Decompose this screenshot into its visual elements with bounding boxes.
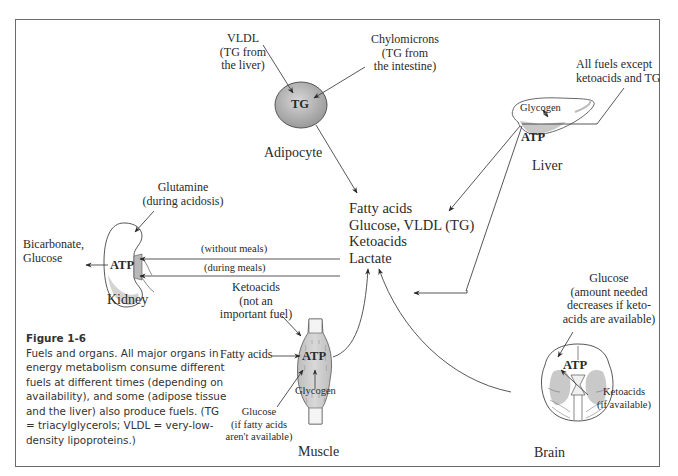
muscle-atp-label: ATP	[302, 349, 326, 364]
glutamine-label: Glutamine (during acidosis)	[133, 181, 233, 208]
brain-glucose-label-line: acids are available)	[559, 313, 659, 327]
muscle-icon	[297, 319, 331, 424]
muscle-glycogen-label: Glycogen	[295, 385, 336, 398]
muscle-glucose-label-line: Glucose	[222, 406, 296, 419]
glutamine-arrow	[135, 211, 154, 232]
glutamine-label-line: Glutamine	[133, 181, 233, 195]
during-meals-label: (during meals)	[204, 262, 266, 275]
brain-name: Brain	[534, 445, 565, 461]
glutamine-label-line: (during acidosis)	[133, 195, 233, 209]
liver-atp-label: ATP	[521, 130, 545, 145]
figure-caption-text: Fuels and organs. All major organs in en…	[26, 347, 226, 446]
adipocyte-tg-label: TG	[291, 97, 309, 112]
liver-glycogen-label: Glycogen	[520, 102, 561, 115]
kidney-name: Kidney	[107, 292, 148, 308]
liver-input-label-line: All fuels except	[576, 58, 660, 72]
muscle-ketoacids-label-line: (not an	[218, 295, 294, 309]
liver-output-arrow	[449, 126, 520, 211]
muscle-to-lactate-arrow	[333, 269, 368, 357]
muscle-glucose-label-line: aren't available)	[222, 431, 296, 444]
kidney-atp-label: ATP	[110, 258, 134, 273]
chylomicrons-label-line: the intestine)	[360, 60, 450, 74]
brain-ketoacids-label: Ketoacids (if available)	[592, 386, 656, 411]
circulating-fuels-list: Fatty acids Glucose, VLDL (TG) Ketoacids…	[349, 200, 474, 267]
vldl-label: VLDL (TG from the liver)	[208, 32, 278, 73]
brain-to-lactate-arrow	[379, 269, 511, 392]
fuel-ketoacids: Ketoacids	[349, 233, 474, 250]
muscle-ketoacids-label-line: Ketoacids	[218, 281, 294, 295]
muscle-ketoacids-label-line: important fuel)	[218, 308, 294, 322]
fuel-fatty-acids: Fatty acids	[349, 200, 474, 217]
muscle-ketoacids-label: Ketoacids (not an important fuel)	[218, 281, 294, 322]
muscle-glucose-label-line: (if fatty acids	[222, 419, 296, 432]
liver-name: Liver	[532, 158, 562, 174]
liver-input-label-line: ketoacids and TG	[576, 72, 660, 86]
brain-glucose-label-line: Glucose	[559, 272, 659, 286]
vldl-label-line: VLDL	[208, 32, 278, 46]
fuel-glucose-vldl: Glucose, VLDL (TG)	[349, 217, 474, 234]
chylomicrons-arrow	[314, 67, 365, 98]
adipocyte-name: Adipocyte	[264, 145, 322, 161]
liver-to-ketoacids-arrow	[414, 290, 467, 293]
brain-glucose-label-line: decreases if keto-	[559, 299, 659, 313]
kidney-output-label: Bicarbonate, Glucose	[23, 238, 84, 265]
vldl-label-line: (TG from	[208, 46, 278, 60]
without-meals-label: (without meals)	[201, 243, 267, 256]
brain-ketoacids-label-line: Ketoacids	[592, 386, 656, 399]
vldl-label-line: the liver)	[208, 59, 278, 73]
muscle-glucose-label: Glucose (if fatty acids aren't available…	[222, 406, 296, 444]
kidney-output-label-line: Glucose	[23, 252, 84, 266]
chylomicrons-label-line: Chylomicrons	[360, 33, 450, 47]
figure-label: Figure 1-6	[26, 331, 231, 346]
fuel-lactate: Lactate	[349, 250, 474, 267]
brain-atp-label: ATP	[563, 358, 587, 373]
muscle-name: Muscle	[298, 444, 339, 460]
brain-glucose-label: Glucose (amount needed decreases if keto…	[559, 272, 659, 326]
kidney-output-label-line: Bicarbonate,	[23, 238, 84, 252]
chylomicrons-label: Chylomicrons (TG from the intestine)	[360, 33, 450, 74]
brain-ketoacids-label-line: (if available)	[592, 399, 656, 412]
liver-input-label: All fuels except ketoacids and TG	[576, 58, 660, 85]
figure-caption: Figure 1-6 Fuels and organs. All major o…	[26, 331, 231, 447]
brain-glucose-label-line: (amount needed	[559, 286, 659, 300]
chylomicrons-label-line: (TG from	[360, 47, 450, 61]
